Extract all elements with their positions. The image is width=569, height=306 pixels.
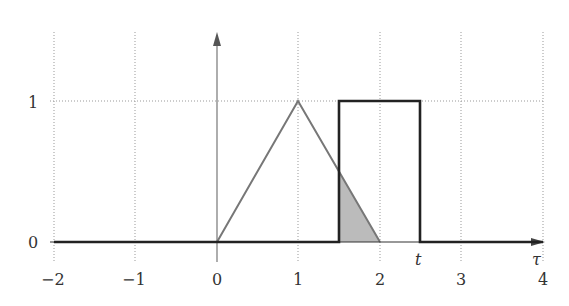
grid (50, 32, 543, 262)
x-tick--2: −2 (41, 270, 65, 289)
tau-label: τ (532, 250, 542, 269)
x-tick-4: 4 (538, 270, 548, 289)
convolution-chart: 1 0 −2 −1 0 1 2 3 4 t τ (0, 0, 569, 306)
y-tick-0: 0 (28, 233, 38, 252)
y-axis-arrow-icon (213, 32, 221, 46)
x-tick-2: 2 (375, 270, 385, 289)
y-tick-1: 1 (28, 93, 38, 112)
t-label: t (415, 250, 422, 269)
x-tick-3: 3 (456, 270, 466, 289)
x-tick--1: −1 (122, 270, 146, 289)
x-tick-1: 1 (293, 270, 303, 289)
x-tick-0: 0 (212, 270, 222, 289)
